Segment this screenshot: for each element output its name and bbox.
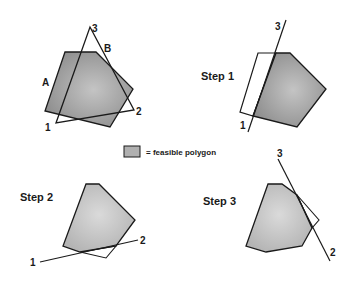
vertex-label-2: 2 (136, 106, 142, 117)
vertex-label-1: 1 (45, 122, 51, 133)
edge-label-a: A (42, 77, 49, 88)
vertex-label-1: 1 (240, 120, 246, 131)
vertex-label-3: 3 (277, 148, 283, 159)
vertex-label-2: 2 (140, 235, 146, 246)
feasible-polygon (246, 184, 312, 252)
step-title: Step 1 (201, 70, 234, 82)
panel-step1: 3 1 Step 1 (201, 20, 326, 132)
panel-step2: 1 2 Step 2 (20, 184, 146, 268)
step-title: Step 3 (203, 195, 236, 207)
legend-text: = feasible polygon (146, 148, 216, 157)
vertex-label-3: 3 (275, 21, 281, 32)
vertex-label-2: 2 (330, 247, 336, 258)
clipping-diagram: 3 B A 2 1 3 1 Step 1 = feasible polygon … (0, 0, 355, 284)
vertex-label-3: 3 (92, 23, 98, 34)
legend-swatch (124, 146, 140, 157)
panel-step3: 3 2 Step 3 (203, 148, 336, 261)
feasible-polygon (63, 184, 135, 252)
panel-original: 3 B A 2 1 (42, 23, 142, 133)
edge-label-b: B (104, 43, 111, 54)
step-title: Step 2 (20, 191, 53, 203)
vertex-label-1: 1 (30, 257, 36, 268)
legend: = feasible polygon (124, 146, 216, 157)
